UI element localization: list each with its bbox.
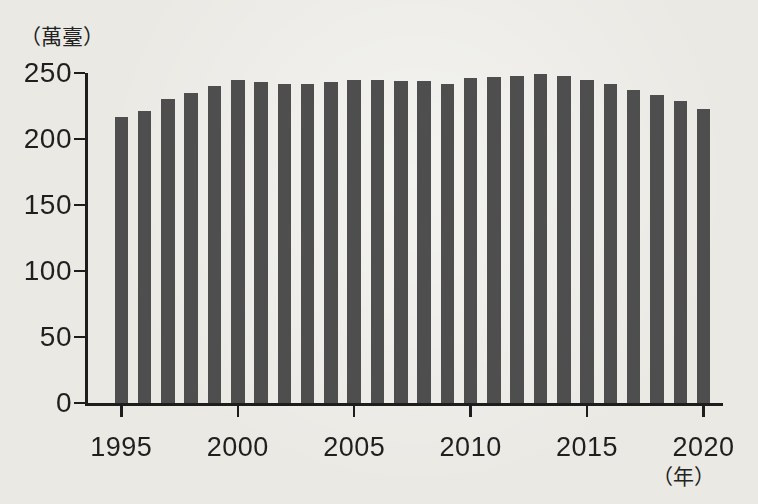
x-axis-tick-label: 2005: [312, 434, 396, 461]
bar-1998: [184, 93, 198, 403]
bar-2012: [510, 76, 524, 403]
bar-2010: [464, 78, 478, 403]
bar-1996: [138, 111, 152, 403]
x-axis-tick: [237, 406, 240, 417]
bar-2007: [394, 81, 408, 403]
y-axis-tick: [74, 72, 85, 75]
bar-2000: [231, 80, 245, 403]
bar-2015: [580, 80, 594, 403]
bar-2013: [534, 74, 548, 403]
plot-area: 050100150200250199520002005201020152020: [0, 0, 758, 504]
y-axis-tick-label: 150: [0, 191, 72, 219]
x-axis-tick-label: 1995: [79, 434, 163, 461]
x-axis-tick-label: 2020: [662, 434, 746, 461]
y-axis-tick: [74, 204, 85, 207]
y-axis-tick: [74, 402, 85, 405]
y-axis-tick: [74, 336, 85, 339]
bar-2019: [674, 101, 688, 403]
x-axis-tick-label: 2000: [196, 434, 280, 461]
bar-2006: [371, 80, 385, 403]
y-axis-tick-label: 250: [0, 59, 72, 87]
bar-2011: [487, 77, 501, 403]
x-axis-tick: [469, 406, 472, 417]
bar-2009: [441, 84, 455, 403]
bar-1999: [208, 86, 222, 403]
y-axis-tick-label: 50: [0, 323, 72, 351]
y-axis-tick-label: 0: [0, 389, 72, 417]
bar-2004: [324, 82, 338, 403]
x-axis-tick-label: 2010: [429, 434, 513, 461]
bar-1995: [115, 117, 129, 403]
x-axis-tick: [702, 406, 705, 417]
bar-2018: [650, 95, 664, 403]
y-axis-tick: [74, 138, 85, 141]
y-axis-tick-label: 200: [0, 125, 72, 153]
y-axis-line: [85, 73, 88, 406]
y-axis-tick-label: 100: [0, 257, 72, 285]
bar-1997: [161, 99, 175, 403]
bar-2008: [417, 81, 431, 403]
bar-2003: [301, 84, 315, 403]
x-axis-tick: [353, 406, 356, 417]
bar-2005: [347, 80, 361, 403]
x-axis-line: [85, 403, 723, 406]
x-axis-unit-label: （年）: [652, 464, 758, 490]
bar-2016: [604, 84, 618, 403]
bar-2002: [278, 84, 292, 403]
y-axis-tick: [74, 270, 85, 273]
bar-2020: [697, 109, 711, 403]
scanned-page: （萬臺） 05010015020025019952000200520102015…: [0, 0, 758, 504]
x-axis-tick: [586, 406, 589, 417]
bar-2017: [627, 90, 641, 403]
x-axis-tick: [120, 406, 123, 417]
bar-2001: [254, 82, 268, 403]
bar-2014: [557, 76, 571, 403]
x-axis-tick-label: 2015: [545, 434, 629, 461]
